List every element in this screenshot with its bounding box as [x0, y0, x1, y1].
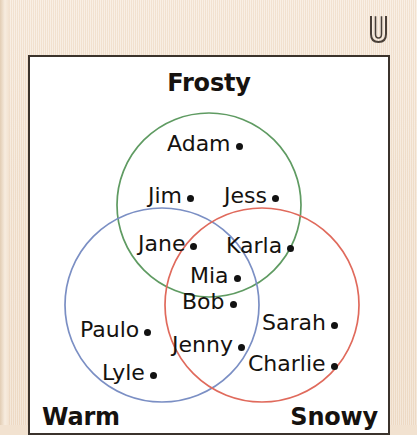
venn-member-paulo: Paulo — [80, 319, 151, 341]
venn-member-point — [150, 372, 157, 379]
venn-member-label: Paulo — [80, 319, 139, 341]
venn-member-point — [230, 301, 237, 308]
venn-member-point — [272, 195, 279, 202]
venn-member-charlie: Charlie — [248, 353, 338, 375]
set-label-frosty: Frosty — [30, 69, 388, 97]
venn-member-point — [187, 195, 194, 202]
venn-member-point — [144, 329, 151, 336]
venn-member-jess: Jess — [224, 185, 279, 207]
venn-member-jim: Jim — [148, 185, 194, 207]
venn-circles — [30, 57, 388, 433]
venn-member-label: Adam — [167, 133, 231, 155]
venn-member-label: Jane — [138, 233, 185, 255]
venn-member-lyle: Lyle — [102, 362, 157, 384]
venn-member-jane: Jane — [138, 233, 197, 255]
universal-set-symbol — [362, 12, 396, 48]
venn-member-point — [238, 344, 245, 351]
venn-member-point — [236, 143, 243, 150]
venn-member-jenny: Jenny — [172, 334, 245, 356]
venn-member-point — [287, 245, 294, 252]
paper-left-edge — [0, 0, 9, 425]
venn-member-adam: Adam — [167, 133, 243, 155]
venn-member-label: Jim — [148, 185, 182, 207]
set-label-warm: Warm — [42, 403, 120, 431]
venn-member-point — [234, 275, 241, 282]
venn-member-point — [190, 243, 197, 250]
venn-member-point — [331, 322, 338, 329]
venn-member-label: Lyle — [102, 362, 145, 384]
set-label-snowy: Snowy — [290, 403, 378, 431]
venn-member-label: Charlie — [248, 353, 326, 375]
venn-member-sarah: Sarah — [262, 312, 338, 334]
venn-member-label: Jenny — [172, 334, 233, 356]
venn-member-karla: Karla — [226, 235, 294, 257]
venn-member-point — [331, 363, 338, 370]
venn-member-label: Karla — [226, 235, 282, 257]
venn-member-label: Jess — [224, 185, 267, 207]
venn-member-label: Bob — [182, 291, 225, 313]
venn-member-mia: Mia — [190, 265, 241, 287]
venn-member-bob: Bob — [182, 291, 237, 313]
venn-universe-frame: Frosty Warm Snowy Adam Jim Jess Jane Kar… — [28, 55, 390, 435]
venn-member-label: Sarah — [262, 312, 326, 334]
venn-member-label: Mia — [190, 265, 229, 287]
